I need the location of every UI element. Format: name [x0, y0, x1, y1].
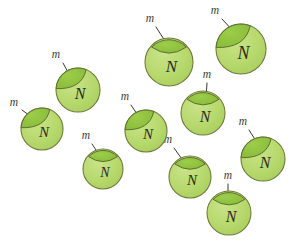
sphere-label-n: N: [186, 172, 198, 188]
arrow-label-m: m: [52, 48, 60, 60]
sphere-label-n: N: [74, 85, 87, 102]
arrow-label-m: m: [146, 12, 154, 24]
sphere-label-n: N: [142, 126, 154, 142]
sphere-label-n: N: [199, 108, 212, 125]
sphere-label-n: N: [38, 124, 50, 140]
arrow-label-m: m: [224, 169, 232, 181]
arrow-label-m: m: [203, 68, 211, 80]
sphere-label-n: N: [259, 154, 272, 171]
sphere-label-n: N: [236, 43, 250, 63]
arrow-label-m: m: [211, 4, 219, 16]
sphere-label-n: N: [165, 57, 179, 76]
arrow-label-m: m: [239, 115, 247, 127]
sphere-label-n: N: [99, 165, 110, 180]
sphere-label-n: N: [225, 208, 238, 225]
arrow-label-m: m: [121, 90, 129, 102]
diagram-canvas: mmmmmmmmmm NNNNNNNNNN: [0, 0, 290, 248]
physics-diagram-figure: mmmmmmmmmm NNNNNNNNNN: [0, 0, 290, 248]
arrow-label-m: m: [82, 129, 90, 141]
arrow-1: m: [52, 48, 69, 74]
arrow-label-m: m: [10, 96, 18, 108]
